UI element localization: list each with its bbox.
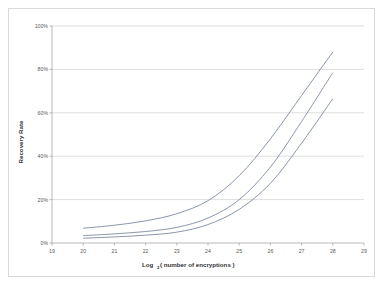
chart-background [9, 9, 374, 276]
x-tick-label: 19 [49, 248, 55, 254]
y-tick-label: 20% [38, 197, 49, 203]
x-tick-label: 25 [236, 248, 242, 254]
x-tick-label: 29 [361, 248, 367, 254]
x-tick-label: 23 [174, 248, 180, 254]
x-tick-label: 20 [80, 248, 86, 254]
x-tick-label: 26 [268, 248, 274, 254]
x-tick-label: 21 [112, 248, 118, 254]
y-tick-label: 80% [38, 66, 49, 72]
recovery-rate-line-chart: 0%20%40%60%80%100% 192021222324252627282… [9, 9, 374, 276]
y-tick-label: 100% [35, 23, 49, 29]
x-axis-title-rest: ( number of encryptions ) [160, 261, 235, 268]
y-axis-title: Recovery Rate [17, 120, 24, 164]
y-tick-label: 60% [38, 110, 49, 116]
x-tick-label: 24 [205, 248, 211, 254]
y-tick-label: 0% [41, 240, 49, 246]
chart-frame: 0%20%40%60%80%100% 192021222324252627282… [8, 8, 375, 277]
x-tick-label: 27 [299, 248, 305, 254]
x-axis-title-main: Log [142, 261, 154, 268]
x-tick-label: 22 [143, 248, 149, 254]
x-tick-label: 28 [330, 248, 336, 254]
y-tick-label: 40% [38, 153, 49, 159]
